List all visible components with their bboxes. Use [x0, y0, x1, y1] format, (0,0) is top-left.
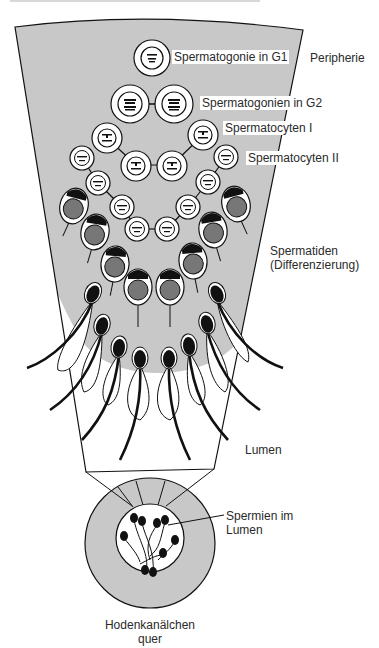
- label-tubule-cross-section: Hodenkanälchen quer: [104, 618, 196, 646]
- label-tubule-line2: quer: [104, 632, 196, 646]
- label-spermatids-line2: (Differenzierung): [270, 258, 359, 272]
- label-spermatogonium-g1: Spermatogonie in G1: [172, 50, 289, 64]
- label-lumen: Lumen: [245, 443, 282, 457]
- spermatogonium-g1: [134, 40, 170, 76]
- tubule-wall-section: [0, 0, 379, 472]
- label-spermatocytes-1: Spermatocyten I: [223, 121, 314, 135]
- label-spermatogonia-g2: Spermatogonien in G2: [200, 96, 324, 110]
- label-sperm-in-lumen: Spermien im Lumen: [226, 509, 293, 537]
- label-sperm-in-lumen-line2: Lumen: [226, 523, 293, 537]
- label-periphery: Peripherie: [310, 51, 365, 65]
- label-spermatids-line1: Spermatiden: [270, 244, 359, 258]
- tubule-cross-section: [85, 469, 224, 608]
- label-tubule-line1: Hodenkanälchen: [104, 618, 196, 632]
- label-spermatocytes-2: Spermatocyten II: [246, 151, 341, 165]
- label-sperm-in-lumen-line1: Spermien im: [226, 509, 293, 523]
- label-spermatids: Spermatiden (Differenzierung): [270, 244, 359, 272]
